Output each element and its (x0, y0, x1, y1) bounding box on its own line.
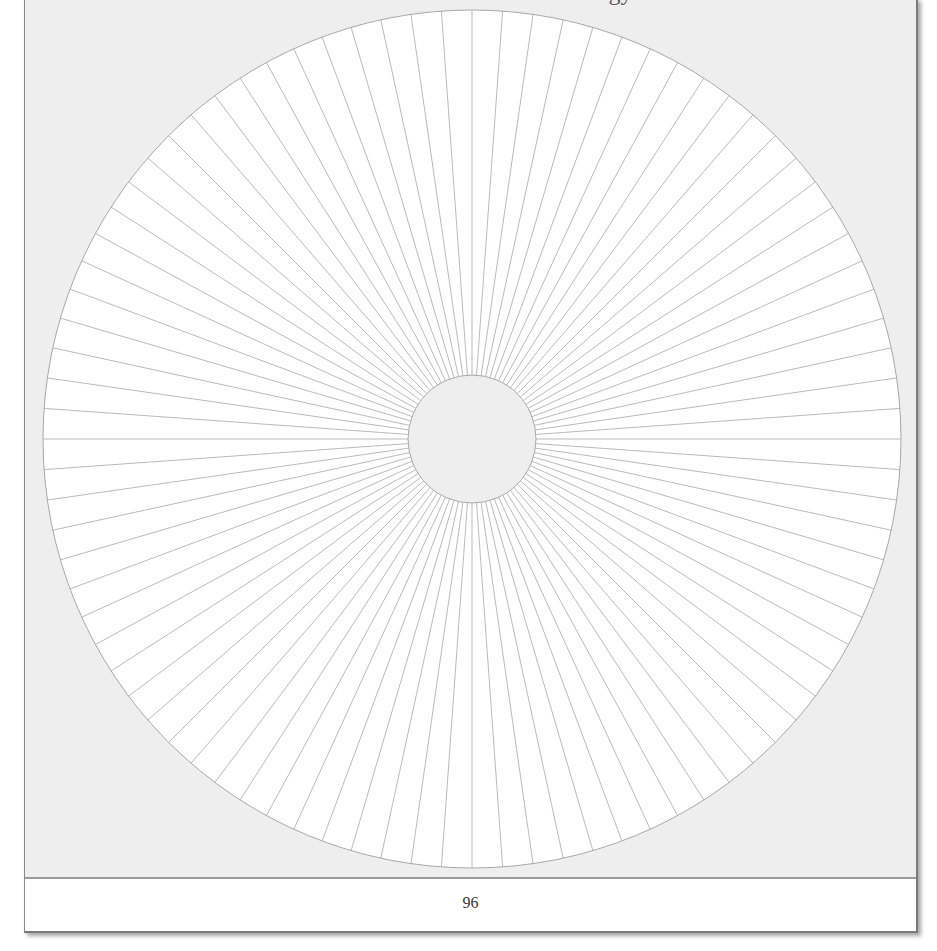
spoke-wheel-diagram (25, 0, 916, 879)
book-page: gy 96 (24, 0, 918, 933)
page-footer: 96 (25, 879, 916, 931)
page-body: gy (25, 0, 916, 879)
inner-hub-circle (408, 375, 536, 503)
page-number: 96 (463, 894, 479, 912)
